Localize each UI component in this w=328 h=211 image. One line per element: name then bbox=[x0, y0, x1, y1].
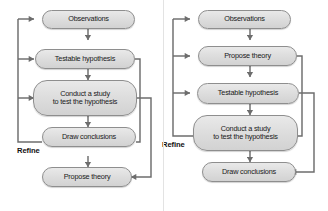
refine-label: Refine bbox=[17, 146, 40, 155]
node-label: Draw conclusions bbox=[218, 168, 280, 176]
edge-refine-spine-left bbox=[173, 19, 193, 136]
node-testable-hypothesis[interactable]: Testable hypothesis bbox=[197, 83, 299, 104]
node-label: Observations bbox=[220, 15, 269, 23]
node-conduct-study[interactable]: Conduct a study to test the hypothesis bbox=[193, 115, 298, 151]
node-label: Conduct a study to test the hypothesis bbox=[209, 125, 282, 141]
node-observations[interactable]: Observations bbox=[42, 10, 135, 29]
diagram-hypothesis-first: Observations Testable hypothesis Conduct… bbox=[0, 0, 164, 211]
node-label: Propose theory bbox=[60, 173, 115, 181]
node-conduct-study[interactable]: Conduct a study to test the hypothesis bbox=[33, 80, 137, 116]
node-draw-conclusions[interactable]: Draw conclusions bbox=[42, 127, 136, 147]
panel-divider bbox=[163, 0, 164, 211]
refine-label: Refine bbox=[162, 140, 185, 149]
node-label: Testable hypothesis bbox=[214, 89, 282, 97]
node-testable-hypothesis[interactable]: Testable hypothesis bbox=[35, 49, 135, 69]
node-label: Propose theory bbox=[220, 52, 275, 60]
node-draw-conclusions[interactable]: Draw conclusions bbox=[202, 162, 296, 182]
edge-refine-spine-left bbox=[18, 19, 42, 142]
node-propose-theory[interactable]: Propose theory bbox=[42, 167, 132, 187]
node-propose-theory[interactable]: Propose theory bbox=[198, 46, 297, 66]
node-label: Draw conclusions bbox=[58, 133, 120, 141]
flowchart-figure: Observations Testable hypothesis Conduct… bbox=[0, 0, 328, 211]
diagram-theory-first: Observations Propose theory Testable hyp… bbox=[164, 0, 328, 211]
node-label: Observations bbox=[64, 15, 113, 23]
node-label: Testable hypothesis bbox=[51, 55, 119, 63]
node-label: Conduct a study to test the hypothesis bbox=[49, 90, 122, 106]
node-observations[interactable]: Observations bbox=[198, 10, 291, 29]
